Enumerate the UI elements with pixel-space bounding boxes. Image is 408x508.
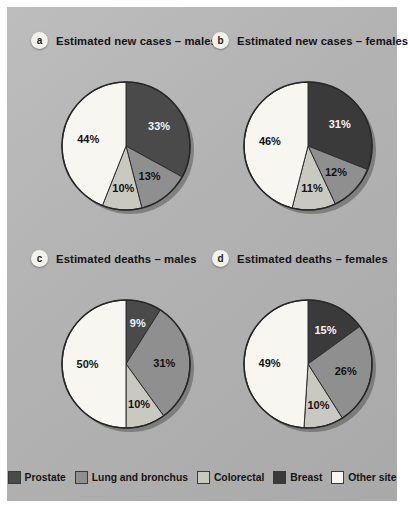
panel-badge-d: d — [212, 250, 229, 267]
legend-item: Breast — [273, 471, 322, 484]
legend-label: Other site — [348, 472, 396, 483]
slice-value-label: 10% — [307, 399, 329, 411]
pie-chart-b: 31%12%11%46% — [235, 73, 381, 219]
panel-badge-c: c — [31, 250, 48, 267]
legend-label: Prostate — [25, 472, 66, 483]
panel-heading-b: b Estimated new cases – females — [212, 32, 408, 49]
legend-swatch — [75, 471, 88, 484]
slice-value-label: 26% — [335, 365, 357, 377]
slice-value-label: 44% — [77, 133, 99, 145]
pie-svg-b: 31%12%11%46% — [235, 73, 381, 219]
panel-heading-c: c Estimated deaths – males — [31, 250, 197, 267]
pie-chart-d: 15%26%10%49% — [235, 291, 381, 437]
panel-badge-b: b — [212, 32, 229, 49]
slice-value-label: 46% — [259, 135, 281, 147]
slice-value-label: 10% — [128, 398, 150, 410]
panel-heading-a: a Estimated new cases – males — [31, 32, 217, 49]
figure-panel: a Estimated new cases – males b Estimate… — [7, 7, 397, 501]
pie-svg-d: 15%26%10%49% — [235, 291, 381, 437]
slice-value-label: 31% — [153, 357, 175, 369]
panel-title-b: Estimated new cases – females — [237, 35, 408, 47]
legend-label: Colorectal — [214, 472, 264, 483]
legend-label: Lung and bronchus — [92, 472, 188, 483]
slice-value-label: 49% — [259, 357, 281, 369]
slice-value-label: 10% — [112, 182, 134, 194]
legend-item: Colorectal — [197, 471, 264, 484]
legend-label: Breast — [290, 472, 322, 483]
pie-chart-c: 9%31%10%50% — [53, 291, 199, 437]
legend-item: Lung and bronchus — [75, 471, 188, 484]
pie-chart-a: 33%13%10%44% — [53, 73, 199, 219]
legend-item: Prostate — [8, 471, 66, 484]
slice-value-label: 9% — [130, 317, 146, 329]
slice-value-label: 15% — [314, 324, 336, 336]
panel-title-a: Estimated new cases – males — [56, 35, 217, 47]
panel-heading-d: d Estimated deaths – females — [212, 250, 388, 267]
slice-value-label: 13% — [139, 170, 161, 182]
pie-svg-a: 33%13%10%44% — [53, 73, 199, 219]
slice-value-label: 31% — [329, 118, 351, 130]
legend-swatch — [331, 471, 344, 484]
legend-swatch — [197, 471, 210, 484]
legend-item: Other site — [331, 471, 396, 484]
panel-badge-a: a — [31, 32, 48, 49]
slice-value-label: 12% — [325, 166, 347, 178]
legend: ProstateLung and bronchusColorectalBreas… — [7, 471, 397, 484]
panel-title-c: Estimated deaths – males — [56, 253, 197, 265]
legend-swatch — [8, 471, 21, 484]
slice-value-label: 33% — [148, 120, 170, 132]
slice-value-label: 11% — [301, 182, 323, 194]
slice-value-label: 50% — [77, 358, 99, 370]
legend-swatch — [273, 471, 286, 484]
panel-title-d: Estimated deaths – females — [237, 253, 388, 265]
pie-svg-c: 9%31%10%50% — [53, 291, 199, 437]
